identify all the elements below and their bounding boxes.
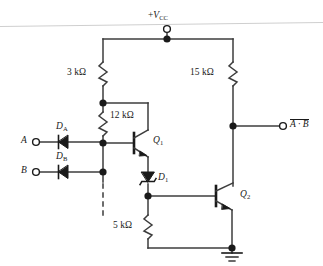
junction-d1-r5k-q2base [144,192,151,199]
junction-input-a-bus [99,139,106,146]
resistor-5k-label: 5 kΩ [113,221,132,231]
transistor-q1-label: Q1 [153,136,163,146]
output-expression: A · B [290,119,309,130]
terminal-vcc[interactable] [164,26,171,33]
junction-input-b-bus [99,168,106,175]
junction-r3k-r12k [99,99,106,106]
q1-collector-lead [134,130,148,138]
diode-db-label: DB [56,152,67,162]
circuit-diagram: +VCC 3 kΩ 12 kΩ 15 kΩ 5 kΩ DA DB D1 Q1 Q… [0,0,323,266]
input-a-label: A [21,136,27,146]
terminal-input-a[interactable] [33,139,40,146]
transistor-q1-name: Q [153,135,160,145]
transistor-q2-subscript: 2 [247,193,250,200]
q2-collector-lead [216,183,233,191]
diode-db-name: D [56,151,63,161]
transistor-q2-name: Q [240,189,247,199]
schematic-canvas [0,0,323,266]
transistor-q2-label: Q2 [240,190,250,200]
scan-artifact-line [0,23,323,27]
terminal-output[interactable] [280,123,287,130]
resistor-12k-symbol [99,112,107,136]
output-label: A · B [290,119,309,130]
junction-output [229,122,236,129]
resistor-3k-label: 3 kΩ [67,68,86,78]
resistor-5k-symbol [144,215,152,239]
resistor-15k-symbol [229,62,237,86]
q2-emitter-arrow [222,204,230,209]
diode-d1-name: D [158,172,165,182]
diode-db-subscript: B [63,155,67,162]
transistor-q1-subscript: 1 [160,139,163,146]
diode-d1-subscript: 1 [165,176,168,183]
resistor-12k-label: 12 kΩ [110,111,134,121]
input-b-label: B [21,166,27,176]
diode-da-subscript: A [63,125,68,132]
resistor-3k-symbol [99,62,107,86]
diode-da-body [59,136,69,149]
terminal-input-b[interactable] [33,169,40,176]
diode-db-body [59,166,69,179]
resistor-15k-label: 15 kΩ [190,68,214,78]
diode-d1-body [142,172,155,182]
supply-label: +VCC [148,11,168,21]
q1-emitter-arrow [140,151,147,156]
diode-da-label: DA [56,122,68,132]
diode-d1-label: D1 [158,173,168,183]
junction-ground [228,244,235,251]
supply-subscript: CC [159,14,168,21]
diode-da-name: D [56,121,63,131]
junction-vcc [163,35,170,42]
